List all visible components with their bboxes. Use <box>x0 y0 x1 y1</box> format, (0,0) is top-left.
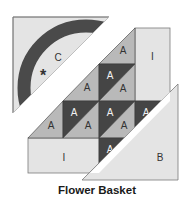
quilt-block-diagram: C * I I A A A A A A <box>0 0 194 203</box>
label-i-bottom: I <box>63 152 66 163</box>
label-a: A <box>107 107 114 118</box>
label-a: A <box>85 120 92 131</box>
label-a: A <box>84 82 91 93</box>
label-i-right: I <box>151 51 154 62</box>
label-a: A <box>120 45 127 56</box>
label-a: A <box>48 120 55 131</box>
label-a: A <box>121 120 128 131</box>
label-a: A <box>120 83 127 94</box>
rect-piece-i-bottom-left: I <box>28 138 99 173</box>
rect-piece-i-top-right: I <box>135 28 170 101</box>
label-a: A <box>107 70 114 81</box>
label-a: A <box>71 107 78 118</box>
label-c: C <box>54 52 61 63</box>
block-title: Flower Basket <box>0 184 194 196</box>
label-b: B <box>157 152 164 163</box>
